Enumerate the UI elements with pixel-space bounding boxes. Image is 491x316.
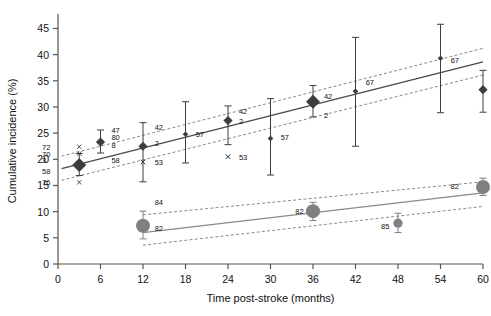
point-label: 82 bbox=[295, 207, 303, 216]
x-tick-label: 6 bbox=[98, 273, 104, 285]
x-tick-label: 36 bbox=[307, 273, 319, 285]
point-label: 67 bbox=[451, 56, 459, 65]
upper-series-data-point[interactable] bbox=[268, 136, 274, 142]
y-tick-label: 5 bbox=[43, 232, 49, 244]
x-tick-label: 48 bbox=[392, 273, 404, 285]
x-tick-label: 30 bbox=[265, 273, 277, 285]
upper-series-data-point[interactable] bbox=[478, 85, 487, 94]
point-label: 57 bbox=[281, 133, 289, 142]
point-label: 53 bbox=[239, 153, 247, 162]
cluster-x-marker bbox=[77, 180, 81, 184]
point-label: 2 bbox=[155, 139, 159, 148]
point-label: 42 bbox=[155, 123, 163, 132]
y-tick-label: 30 bbox=[37, 101, 49, 113]
x-axis-title: Time post-stroke (months) bbox=[207, 292, 335, 304]
point-label: 84 bbox=[155, 198, 163, 207]
point-label: 53 bbox=[155, 158, 163, 167]
cumulative-incidence-scatter-chart: 05101520253035404506121824303642485460Ti… bbox=[0, 0, 491, 316]
y-tick-label: 35 bbox=[37, 75, 49, 87]
point-label: 82 bbox=[451, 182, 459, 191]
point-label: 76 bbox=[42, 178, 50, 187]
point-label: 8 bbox=[111, 141, 115, 150]
chart-container: 05101520253035404506121824303642485460Ti… bbox=[0, 0, 491, 316]
x-tick-label: 42 bbox=[350, 273, 362, 285]
y-tick-label: 45 bbox=[37, 22, 49, 34]
point-label: 58 bbox=[111, 156, 119, 165]
upper-series-data-point[interactable] bbox=[438, 56, 444, 62]
y-tick-label: 0 bbox=[43, 258, 49, 270]
y-tick-label: 25 bbox=[37, 127, 49, 139]
x-tick-label: 60 bbox=[477, 273, 489, 285]
point-label: 3 bbox=[42, 156, 46, 165]
y-axis-title: Cumulative incidence (%) bbox=[6, 79, 18, 204]
upper-series-extra-marker bbox=[226, 154, 231, 159]
lower-series-data-point[interactable] bbox=[393, 219, 402, 228]
upper-series-ci-lower-band bbox=[62, 75, 483, 180]
cluster-x-marker bbox=[77, 145, 81, 149]
lower-series-data-point[interactable] bbox=[136, 219, 150, 233]
lower-series-data-point[interactable] bbox=[306, 204, 320, 218]
point-label: 85 bbox=[381, 222, 389, 231]
point-label: 2 bbox=[239, 117, 243, 126]
x-tick-label: 0 bbox=[55, 273, 61, 285]
lower-series-data-point[interactable] bbox=[476, 180, 490, 194]
point-label: 2 bbox=[324, 111, 328, 120]
point-label: 82 bbox=[155, 224, 163, 233]
point-label: 42 bbox=[239, 107, 247, 116]
y-tick-label: 10 bbox=[37, 206, 49, 218]
upper-series-fit-line bbox=[62, 62, 483, 169]
x-tick-label: 18 bbox=[180, 273, 192, 285]
upper-series-data-point[interactable] bbox=[72, 158, 86, 172]
upper-series-ci-upper-band bbox=[62, 48, 483, 156]
point-label: 42 bbox=[324, 92, 332, 101]
point-label: 57 bbox=[196, 130, 204, 139]
x-tick-label: 54 bbox=[435, 273, 447, 285]
point-label: 67 bbox=[366, 78, 374, 87]
upper-series-data-point[interactable] bbox=[183, 131, 189, 137]
x-tick-label: 24 bbox=[222, 273, 234, 285]
y-tick-label: 40 bbox=[37, 49, 49, 61]
x-tick-label: 12 bbox=[137, 273, 149, 285]
upper-series-data-point[interactable] bbox=[223, 116, 232, 125]
point-label: 58 bbox=[42, 167, 50, 176]
